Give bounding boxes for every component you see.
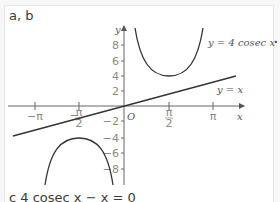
cosec-label-dot (275, 41, 277, 43)
origin-label: O (127, 111, 135, 122)
y-axis-label: y (114, 24, 121, 35)
x-axis-label: x (237, 111, 243, 122)
y-tick-label: 4 (112, 70, 119, 83)
line-curve-label: y = x (216, 84, 243, 95)
y-tick-label: −2 (103, 115, 119, 128)
y-tick-label: 6 (112, 55, 119, 68)
part-c-equation: c 4 cosec x − x = 0 (9, 190, 136, 202)
cosec-upper-branch (135, 28, 203, 76)
y-tick-label: −6 (103, 147, 119, 160)
x-tick-label-half-pi: π 2 (165, 106, 173, 130)
cosec-curve-label: y = 4 cosec x (207, 37, 275, 48)
chart-canvas: 8 6 4 2 −2 −4 −6 −8 −π − π 2 π 2 π x y O… (0, 0, 280, 202)
y-tick-label: −4 (103, 132, 119, 145)
x-tick-label-neg-pi: −π (27, 110, 43, 123)
y-tick-label: 8 (112, 39, 119, 52)
svg-text:2: 2 (166, 117, 173, 130)
x-tick-label-pi: π (210, 110, 217, 123)
y-tick-label: 2 (112, 85, 119, 98)
cosec-lower-branch (45, 138, 113, 185)
